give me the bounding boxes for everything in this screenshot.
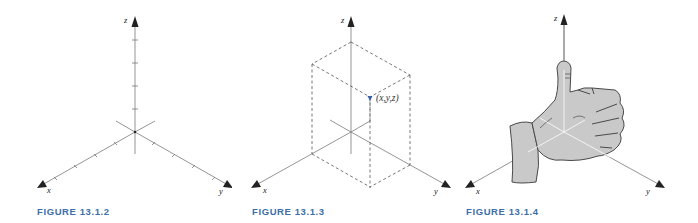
point-label: (x,y,z) (376, 93, 399, 103)
x-axis-label: x (263, 185, 267, 195)
z-axis-label: z (124, 15, 127, 25)
point-marker (368, 96, 373, 101)
x-arrow-icon (37, 180, 47, 188)
y-arrow-icon (223, 180, 232, 188)
z-arrow-icon (348, 16, 355, 27)
x-axis-label: x (476, 186, 480, 196)
x-axis-label: x (47, 185, 51, 195)
axes-diagram (0, 0, 232, 223)
y-arrow-icon (655, 180, 665, 188)
figure-caption: FIGURE 13.1.2 (37, 206, 110, 217)
figure-caption: FIGURE 13.1.3 (252, 206, 325, 217)
y-arrow-icon (441, 180, 451, 188)
x-arrow-icon (251, 180, 261, 188)
figure-13-1-2: z x y FIGURE 13.1.2 (0, 0, 232, 223)
x-arrow-icon (465, 180, 475, 188)
z-axis-label: z (554, 13, 557, 23)
figure-caption: FIGURE 13.1.4 (466, 206, 539, 217)
dashed-box (312, 42, 410, 188)
y-axis-label: y (646, 186, 650, 196)
z-arrow-icon (561, 14, 568, 25)
hand-icon (510, 61, 624, 183)
y-axis-label: y (434, 186, 438, 196)
y-axis-label: y (219, 186, 223, 196)
z-arrow-icon (132, 16, 139, 27)
z-axis-label: z (341, 15, 344, 25)
